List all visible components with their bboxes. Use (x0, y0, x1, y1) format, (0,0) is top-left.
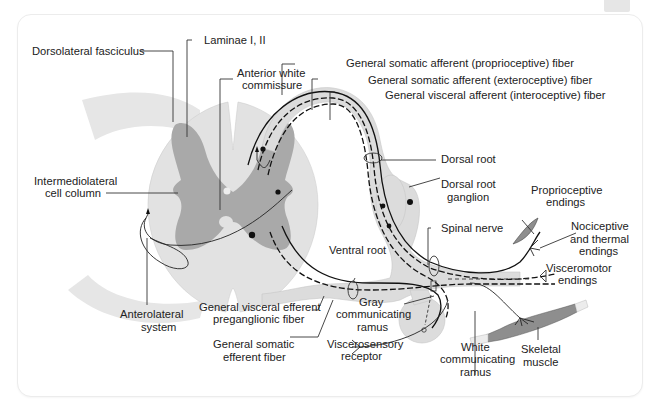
label-skeletal-muscle-2: muscle (523, 356, 558, 368)
nociceptive-endings (530, 240, 540, 256)
label-gse-2: efferent fiber (223, 351, 286, 363)
drg-neuron-1 (407, 199, 413, 205)
drg-neuron-2 (381, 204, 386, 209)
label-gray-ramus-2: communicating (336, 308, 411, 320)
skeletal-motor-fiber (470, 283, 520, 318)
spinal-cord-diagram: Dorsolateral fasciculus Laminae I, II An… (0, 0, 659, 409)
spinal-cord (148, 102, 318, 312)
label-viscerosensory: Viscerosensory (327, 338, 404, 350)
label-anterolateral: Anterolateral (120, 308, 183, 320)
label-gray-ramus: Gray (359, 296, 384, 308)
skeletal-muscle (470, 300, 588, 346)
label-gse: General somatic (213, 338, 295, 350)
label-spinal-nerve: Spinal nerve (441, 222, 503, 234)
label-nociceptive: Nociceptive (571, 220, 629, 232)
label-ventral-root: Ventral root (329, 244, 387, 256)
ventral-horn-motor-neuron (249, 232, 255, 238)
label-gva-interoceptive: General visceral afferent (interoceptive… (385, 89, 606, 101)
ventral-commissure-space (219, 216, 233, 228)
label-intermediolateral: Intermediolateral (34, 175, 117, 187)
central-canal (224, 188, 231, 195)
label-white-ramus-3: ramus (460, 366, 491, 378)
label-gve-preganglionic: General visceral efferent (199, 301, 322, 313)
label-dorsal-root: Dorsal root (441, 153, 497, 165)
label-intermediolateral-2: cell column (45, 187, 101, 199)
dorsal-root-ganglion (376, 175, 406, 231)
label-dorsolateral-fasciculus: Dorsolateral fasciculus (32, 45, 145, 57)
label-skeletal-muscle: Skeletal (521, 343, 561, 355)
label-anterior-white-commissure: Anterior white (237, 67, 305, 79)
drg-neuron-3 (387, 224, 392, 229)
label-drg: Dorsal root (441, 178, 497, 190)
label-proprioceptive-endings: Proprioceptive (531, 184, 603, 196)
label-visceromotor: Visceromotor (546, 262, 612, 274)
label-gsa-proprioceptive: General somatic afferent (proprioceptive… (346, 57, 574, 69)
label-white-ramus: White (461, 341, 490, 353)
label-proprioceptive-endings-2: endings (546, 196, 586, 208)
label-anterior-white-commissure-2: commissure (242, 79, 302, 91)
label-white-ramus-2: communicating (440, 353, 515, 365)
lateral-horn-neuron (275, 189, 280, 194)
dorsal-horn-neuron (260, 146, 265, 151)
label-gray-ramus-3: ramus (357, 321, 388, 333)
label-nociceptive-2: and thermal (570, 233, 629, 245)
label-gsa-exteroceptive: General somatic afferent (exteroceptive)… (368, 74, 593, 86)
label-anterolateral-2: system (141, 321, 176, 333)
label-gve-preganglionic-2: preganglionic fiber (213, 313, 305, 325)
label-laminae: Laminae I, II (204, 34, 266, 46)
label-visceromotor-2: endings (558, 274, 598, 286)
label-viscerosensory-2: receptor (341, 350, 382, 362)
label-drg-2: ganglion (447, 191, 489, 203)
label-nociceptive-3: endings (579, 245, 619, 257)
